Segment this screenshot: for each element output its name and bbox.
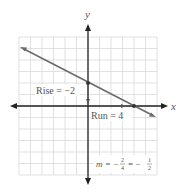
frac1-denominator: 4 <box>121 165 124 171</box>
frac1-numerator: 2 <box>121 157 124 163</box>
arrow-up-icon <box>85 24 91 31</box>
x-intercept-point <box>132 104 136 108</box>
run-label: Run = 4 <box>91 110 123 121</box>
frac2-numerator: 1 <box>148 157 151 163</box>
run-arrow <box>121 104 126 108</box>
frac2-denominator: 2 <box>148 165 151 171</box>
y-intercept-point <box>86 81 90 85</box>
slope-equals: = − <box>128 159 140 169</box>
slope-formula: m = − 2 4 = − 1 2 <box>94 155 156 173</box>
slope-prefix: m = − <box>96 159 119 169</box>
run-arrowhead-icon <box>121 104 126 108</box>
rise-arrowhead-icon <box>86 99 90 104</box>
y-axis-label: y <box>84 8 90 20</box>
arrow-left-icon <box>10 103 17 109</box>
rise-label: Rise = −2 <box>36 85 75 96</box>
x-axis-label: x <box>170 100 176 112</box>
x-axis <box>10 103 168 109</box>
coordinate-plane-figure: x y Rise = −2 Run = 4 m = − 2 4 = − 1 2 <box>0 0 183 192</box>
arrow-right-icon <box>161 103 168 109</box>
arrow-down-icon <box>85 178 91 185</box>
